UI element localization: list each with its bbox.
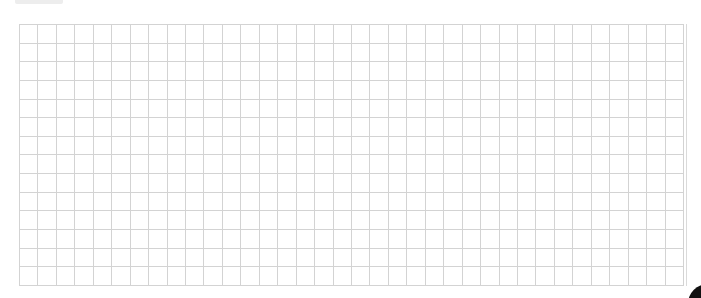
- grid-cell[interactable]: [610, 44, 628, 63]
- grid-cell[interactable]: [555, 25, 573, 44]
- grid-cell[interactable]: [407, 174, 425, 193]
- grid-cell[interactable]: [389, 230, 407, 249]
- grid-cell[interactable]: [112, 100, 130, 119]
- grid-cell[interactable]: [666, 100, 684, 119]
- grid-cell[interactable]: [444, 25, 462, 44]
- grid-cell[interactable]: [168, 267, 186, 286]
- grid-cell[interactable]: [518, 230, 536, 249]
- grid-cell[interactable]: [536, 249, 554, 268]
- grid-cell[interactable]: [481, 137, 499, 156]
- grid-cell[interactable]: [94, 155, 112, 174]
- grid-cell[interactable]: [149, 174, 167, 193]
- grid-cell[interactable]: [297, 249, 315, 268]
- grid-cell[interactable]: [278, 118, 296, 137]
- grid-cell[interactable]: [315, 62, 333, 81]
- grid-cell[interactable]: [75, 137, 93, 156]
- grid-cell[interactable]: [444, 174, 462, 193]
- grid-cell[interactable]: [536, 211, 554, 230]
- grid-cell[interactable]: [204, 81, 222, 100]
- grid-cell[interactable]: [610, 137, 628, 156]
- grid-cell[interactable]: [555, 100, 573, 119]
- grid-cell[interactable]: [334, 81, 352, 100]
- grid-cell[interactable]: [168, 155, 186, 174]
- grid-cell[interactable]: [426, 137, 444, 156]
- grid-cell[interactable]: [334, 62, 352, 81]
- grid-cell[interactable]: [463, 118, 481, 137]
- grid-cell[interactable]: [629, 249, 647, 268]
- grid-cell[interactable]: [20, 155, 38, 174]
- grid-cell[interactable]: [297, 62, 315, 81]
- grid-cell[interactable]: [573, 44, 591, 63]
- grid-cell[interactable]: [463, 230, 481, 249]
- grid-cell[interactable]: [647, 81, 665, 100]
- grid-cell[interactable]: [168, 25, 186, 44]
- grid-cell[interactable]: [112, 62, 130, 81]
- grid-cell[interactable]: [536, 193, 554, 212]
- grid-cell[interactable]: [463, 81, 481, 100]
- grid-cell[interactable]: [500, 211, 518, 230]
- grid-cell[interactable]: [20, 25, 38, 44]
- grid-cell[interactable]: [112, 25, 130, 44]
- grid-cell[interactable]: [186, 249, 204, 268]
- grid-cell[interactable]: [463, 249, 481, 268]
- grid-cell[interactable]: [297, 174, 315, 193]
- grid-cell[interactable]: [536, 155, 554, 174]
- grid-cell[interactable]: [518, 211, 536, 230]
- grid-cell[interactable]: [352, 25, 370, 44]
- grid-cell[interactable]: [666, 25, 684, 44]
- grid-cell[interactable]: [297, 81, 315, 100]
- grid-cell[interactable]: [75, 267, 93, 286]
- grid-cell[interactable]: [20, 267, 38, 286]
- grid-cell[interactable]: [463, 44, 481, 63]
- grid-cell[interactable]: [352, 211, 370, 230]
- grid-cell[interactable]: [426, 267, 444, 286]
- grid-cell[interactable]: [500, 100, 518, 119]
- grid-cell[interactable]: [315, 25, 333, 44]
- grid-cell[interactable]: [536, 44, 554, 63]
- grid-cell[interactable]: [592, 249, 610, 268]
- grid-cell[interactable]: [518, 137, 536, 156]
- grid-cell[interactable]: [389, 81, 407, 100]
- grid-cell[interactable]: [444, 137, 462, 156]
- grid-cell[interactable]: [389, 193, 407, 212]
- grid-cell[interactable]: [481, 62, 499, 81]
- grid-cell[interactable]: [168, 211, 186, 230]
- grid-cell[interactable]: [426, 62, 444, 81]
- grid-cell[interactable]: [610, 81, 628, 100]
- grid-cell[interactable]: [481, 25, 499, 44]
- grid-cell[interactable]: [407, 100, 425, 119]
- grid-cell[interactable]: [20, 230, 38, 249]
- grid-cell[interactable]: [573, 118, 591, 137]
- grid-cell[interactable]: [334, 44, 352, 63]
- grid-cell[interactable]: [204, 100, 222, 119]
- grid-cell[interactable]: [315, 100, 333, 119]
- grid-cell[interactable]: [426, 25, 444, 44]
- grid-cell[interactable]: [241, 118, 259, 137]
- grid-cell[interactable]: [592, 137, 610, 156]
- grid-cell[interactable]: [573, 100, 591, 119]
- grid-cell[interactable]: [20, 100, 38, 119]
- floating-action-button[interactable]: [688, 284, 701, 298]
- grid-cell[interactable]: [204, 137, 222, 156]
- grid-cell[interactable]: [315, 81, 333, 100]
- grid-cell[interactable]: [426, 100, 444, 119]
- grid-cell[interactable]: [168, 81, 186, 100]
- grid-cell[interactable]: [573, 267, 591, 286]
- grid-cell[interactable]: [666, 137, 684, 156]
- grid-cell[interactable]: [426, 81, 444, 100]
- grid-cell[interactable]: [38, 211, 56, 230]
- grid-cell[interactable]: [555, 267, 573, 286]
- grid-cell[interactable]: [370, 230, 388, 249]
- grid-cell[interactable]: [536, 137, 554, 156]
- grid-cell[interactable]: [38, 193, 56, 212]
- grid-cell[interactable]: [463, 193, 481, 212]
- grid-cell[interactable]: [75, 62, 93, 81]
- grid-cell[interactable]: [518, 155, 536, 174]
- grid-cell[interactable]: [500, 137, 518, 156]
- grid-cell[interactable]: [94, 25, 112, 44]
- grid-cell[interactable]: [38, 267, 56, 286]
- grid-cell[interactable]: [94, 249, 112, 268]
- grid-cell[interactable]: [536, 81, 554, 100]
- grid-cell[interactable]: [204, 174, 222, 193]
- grid-cell[interactable]: [94, 267, 112, 286]
